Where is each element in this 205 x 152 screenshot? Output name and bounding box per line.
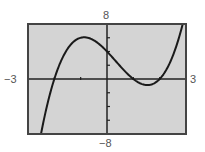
graphing-calculator-window: 8 −8 −3 3 [0,0,205,152]
y-min-label: −8 [99,138,112,149]
y-max-label: 8 [103,10,109,21]
plot-area [0,0,205,152]
x-max-label: 3 [190,74,196,85]
x-min-label: −3 [4,74,17,85]
